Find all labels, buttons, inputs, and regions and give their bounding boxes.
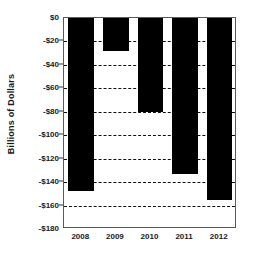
y-tick-label: -$40 <box>43 59 59 68</box>
x-tick-label: 2012 <box>210 232 228 241</box>
bar-chart: Billions of Dollars $0-$20-$40-$60-$80-$… <box>0 0 253 258</box>
bar <box>138 18 164 112</box>
y-tick-label: -$140 <box>39 177 59 186</box>
y-tick-mark <box>59 40 63 41</box>
y-tick-mark <box>59 134 63 135</box>
x-axis-tick-labels: 20082009201020112012 <box>63 232 236 252</box>
y-tick-label: -$60 <box>43 83 59 92</box>
bar <box>68 18 94 191</box>
y-tick-label: -$20 <box>43 36 59 45</box>
y-axis-title-text: Billions of Dollars <box>6 74 16 154</box>
y-tick-mark <box>59 110 63 111</box>
y-tick-mark <box>59 87 63 88</box>
y-tick-label: -$160 <box>39 200 59 209</box>
x-tick-label: 2008 <box>71 232 89 241</box>
bar-series <box>64 18 235 227</box>
y-tick-label: -$180 <box>39 224 59 233</box>
bar <box>172 18 198 174</box>
y-tick-label: $0 <box>50 13 59 22</box>
y-tick-mark <box>59 181 63 182</box>
x-tick-label: 2009 <box>106 232 124 241</box>
y-tick-mark <box>59 63 63 64</box>
plot-area <box>63 17 236 228</box>
bar <box>103 18 129 51</box>
x-tick-label: 2011 <box>175 232 192 241</box>
y-tick-label: -$120 <box>39 153 59 162</box>
y-axis-title: Billions of Dollars <box>0 0 22 228</box>
x-tick-label: 2010 <box>141 232 159 241</box>
y-axis-tick-labels: $0-$20-$40-$60-$80-$100-$120-$140-$160-$… <box>22 0 62 258</box>
bar <box>207 18 233 200</box>
y-tick-mark <box>59 157 63 158</box>
y-tick-label: -$100 <box>39 130 59 139</box>
y-tick-label: -$80 <box>43 106 59 115</box>
y-tick-mark <box>59 204 63 205</box>
